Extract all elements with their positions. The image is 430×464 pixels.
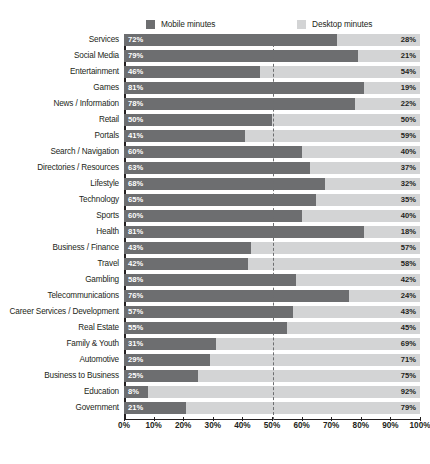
mobile-value-label: 79% <box>128 50 143 62</box>
mobile-value-label: 68% <box>128 178 143 190</box>
desktop-bar-segment <box>124 34 420 46</box>
desktop-bar-segment <box>124 98 420 110</box>
legend-entry-mobile: Mobile minutes <box>146 16 215 32</box>
category-label: Games <box>0 82 119 98</box>
x-axis-tick-label: 10% <box>145 421 161 430</box>
category-label: Lifestyle <box>0 178 119 194</box>
desktop-bar-segment <box>124 146 420 158</box>
desktop-value-label: 59% <box>401 130 416 142</box>
mobile-bar-segment <box>124 66 260 78</box>
bar-row: 29%71% <box>124 354 420 370</box>
category-label: Entertainment <box>0 66 119 82</box>
mobile-value-label: 63% <box>128 162 143 174</box>
chart-legend: Mobile minutes Desktop minutes <box>124 16 420 32</box>
mobile-value-label: 65% <box>128 194 143 206</box>
x-axis-tick-label: 40% <box>234 421 250 430</box>
desktop-value-label: 40% <box>401 146 416 158</box>
desktop-bar-segment <box>124 402 420 414</box>
mobile-bar-segment <box>124 34 337 46</box>
category-label: News / Information <box>0 98 119 114</box>
desktop-value-label: 71% <box>401 354 416 366</box>
category-label: Technology <box>0 194 119 210</box>
x-axis-tick-label: 80% <box>353 421 369 430</box>
desktop-bar-segment <box>124 354 420 366</box>
figure-caption <box>4 452 424 464</box>
category-label: Retail <box>0 114 119 130</box>
mobile-value-label: 41% <box>128 130 143 142</box>
desktop-value-label: 58% <box>401 258 416 270</box>
bar-row: 46%54% <box>124 66 420 82</box>
desktop-value-label: 28% <box>401 34 416 46</box>
mobile-value-label: 31% <box>128 338 143 350</box>
bar-row: 58%42% <box>124 274 420 290</box>
mobile-value-label: 72% <box>128 34 143 46</box>
desktop-bar-segment <box>124 306 420 318</box>
desktop-bar-segment <box>124 370 420 382</box>
category-label: Real Estate <box>0 322 119 338</box>
bar-row: 76%24% <box>124 290 420 306</box>
desktop-bar-segment <box>124 82 420 94</box>
category-label: Telecommunications <box>0 290 119 306</box>
desktop-value-label: 35% <box>401 194 416 206</box>
category-label: Education <box>0 386 119 402</box>
desktop-value-label: 18% <box>401 226 416 238</box>
bar-row: 42%58% <box>124 258 420 274</box>
mobile-value-label: 60% <box>128 146 143 158</box>
x-axis-tick-label: 90% <box>382 421 398 430</box>
x-axis: 0%10%20%30%40%50%60%70%80%90%100% <box>124 421 420 435</box>
x-axis-tick-label: 100% <box>410 421 430 430</box>
desktop-bar-segment <box>124 338 420 350</box>
category-label: Business to Business <box>0 370 119 386</box>
mobile-value-label: 25% <box>128 370 143 382</box>
x-axis-tick-label: 60% <box>293 421 309 430</box>
category-axis-labels: ServicesSocial MediaEntertainmentGamesNe… <box>0 34 119 418</box>
mobile-value-label: 58% <box>128 274 143 286</box>
category-label: Career Services / Development <box>0 306 119 322</box>
category-label: Gambling <box>0 274 119 290</box>
desktop-bar-segment <box>124 290 420 302</box>
category-label: Search / Navigation <box>0 146 119 162</box>
desktop-bar-segment <box>124 242 420 254</box>
category-label: Health <box>0 226 119 242</box>
bar-row: 57%43% <box>124 306 420 322</box>
desktop-value-label: 45% <box>401 322 416 334</box>
desktop-bar-segment <box>124 258 420 270</box>
category-label: Services <box>0 34 119 50</box>
desktop-bar-segment <box>124 226 420 238</box>
desktop-value-label: 57% <box>401 242 416 254</box>
desktop-value-label: 50% <box>401 114 416 126</box>
bar-row: 50%50% <box>124 114 420 130</box>
mobile-value-label: 8% <box>128 386 139 398</box>
desktop-value-label: 43% <box>401 306 416 318</box>
x-axis-tick-label: 30% <box>205 421 221 430</box>
desktop-value-label: 32% <box>401 178 416 190</box>
bar-row: 63%37% <box>124 162 420 178</box>
bar-row: 60%40% <box>124 210 420 226</box>
bar-row: 41%59% <box>124 130 420 146</box>
mobile-value-label: 81% <box>128 82 143 94</box>
mobile-value-label: 55% <box>128 322 143 334</box>
mobile-value-label: 42% <box>128 258 143 270</box>
mobile-value-label: 43% <box>128 242 143 254</box>
bar-row: 43%57% <box>124 242 420 258</box>
desktop-bar-segment <box>124 114 420 126</box>
mobile-value-label: 29% <box>128 354 143 366</box>
x-axis-tick-label: 0% <box>118 421 130 430</box>
bar-row: 79%21% <box>124 50 420 66</box>
desktop-value-label: 40% <box>401 210 416 222</box>
bar-row: 60%40% <box>124 146 420 162</box>
mobile-bar-segment <box>124 114 272 126</box>
category-label: Automotive <box>0 354 119 370</box>
category-label: Social Media <box>0 50 119 66</box>
legend-entry-desktop: Desktop minutes <box>297 16 372 32</box>
desktop-bar-segment <box>124 162 420 174</box>
mobile-bar-segment <box>124 178 325 190</box>
category-label: Travel <box>0 258 119 274</box>
mobile-bar-segment <box>124 274 296 286</box>
category-label: Government <box>0 402 119 418</box>
x-axis-tick-label: 20% <box>175 421 191 430</box>
bar-row: 8%92% <box>124 386 420 402</box>
desktop-bar-segment <box>124 66 420 78</box>
bar-row: 25%75% <box>124 370 420 386</box>
